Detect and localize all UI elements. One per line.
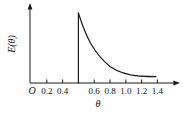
y-axis <box>28 3 33 83</box>
x-tick-label: 0.6 <box>89 86 100 96</box>
x-tick-label: 1.0 <box>120 86 131 96</box>
origin-label: O <box>28 86 35 96</box>
x-axis-title: θ <box>96 99 101 109</box>
x-tick-label: 0.4 <box>57 86 68 96</box>
x-axis-ticks <box>47 80 158 84</box>
plot-canvas <box>0 0 183 119</box>
x-axis-arrow-icon <box>173 81 180 86</box>
data-series-E-theta <box>78 13 156 83</box>
y-axis-title: E(θ) <box>7 35 17 53</box>
x-tick-label: 0.8 <box>104 86 115 96</box>
decay-curve <box>78 13 156 77</box>
x-tick-label: 1.2 <box>136 86 147 96</box>
x-tick-label: 0.2 <box>41 86 52 96</box>
chart-figure: E(θ) O 0.2 0.4 0.6 0.8 1.0 1.2 1.4 θ <box>0 0 183 119</box>
y-axis-arrow-icon <box>28 3 33 10</box>
x-tick-label: 1.4 <box>152 86 163 96</box>
